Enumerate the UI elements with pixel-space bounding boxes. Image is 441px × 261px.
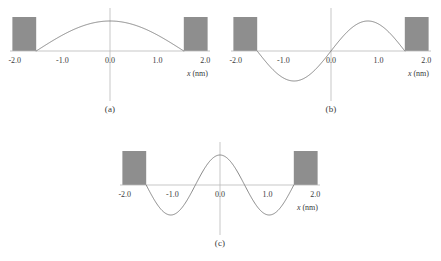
x-tick-label: 0.0 bbox=[105, 56, 115, 65]
x-axis-title: x (nm) bbox=[186, 69, 208, 78]
barrier-left bbox=[12, 17, 36, 51]
x-tick-label: 2.0 bbox=[421, 56, 431, 65]
x-tick-label: -1.0 bbox=[277, 56, 290, 65]
panel-b-caption: (b) bbox=[225, 104, 437, 114]
x-axis-title: x (nm) bbox=[296, 203, 318, 212]
x-tick-label: 0.0 bbox=[326, 56, 336, 65]
panel-a-caption: (a) bbox=[4, 104, 216, 114]
barrier-right bbox=[405, 17, 429, 51]
x-tick-label: 1.0 bbox=[374, 56, 384, 65]
barrier-right bbox=[294, 151, 318, 185]
panel-a-plot: -2.0-1.00.01.02.0 x (nm) bbox=[4, 4, 216, 104]
panel-a: -2.0-1.00.01.02.0 x (nm) (a) bbox=[4, 4, 216, 122]
panel-b-plot: -2.0-1.00.01.02.0 x (nm) bbox=[225, 4, 437, 104]
x-tick-label: -2.0 bbox=[229, 56, 242, 65]
panel-a-tick-labels: -2.0-1.00.01.02.0 bbox=[8, 56, 210, 65]
x-tick-label: -1.0 bbox=[166, 190, 179, 199]
panel-c-plot: -2.0-1.00.01.02.0 x (nm) bbox=[114, 138, 326, 238]
panel-b: -2.0-1.00.01.02.0 x (nm) (b) bbox=[225, 4, 437, 122]
x-tick-label: -2.0 bbox=[118, 190, 131, 199]
panel-c: -2.0-1.00.01.02.0 x (nm) (c) bbox=[114, 138, 326, 256]
x-tick-label: -1.0 bbox=[56, 56, 69, 65]
x-tick-label: 2.0 bbox=[310, 190, 320, 199]
x-tick-label: 2.0 bbox=[200, 56, 210, 65]
panel-c-caption: (c) bbox=[114, 238, 326, 248]
figure-root: -2.0-1.00.01.02.0 x (nm) (a) -2.0-1.00.0… bbox=[0, 0, 441, 261]
panel-b-tick-labels: -2.0-1.00.01.02.0 bbox=[229, 56, 431, 65]
barrier-left bbox=[233, 17, 257, 51]
x-tick-label: 0.0 bbox=[215, 190, 225, 199]
x-axis-title: x (nm) bbox=[407, 69, 429, 78]
barrier-left bbox=[122, 151, 146, 185]
barrier-right bbox=[184, 17, 208, 51]
x-tick-label: -2.0 bbox=[8, 56, 21, 65]
x-tick-label: 1.0 bbox=[153, 56, 163, 65]
x-tick-label: 1.0 bbox=[263, 190, 273, 199]
